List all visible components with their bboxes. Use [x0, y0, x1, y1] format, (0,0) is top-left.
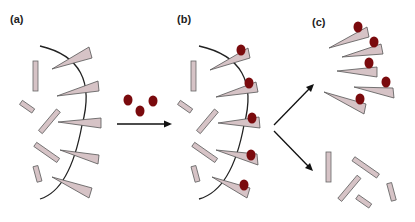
- ligand: [124, 95, 133, 106]
- wedge: [337, 67, 377, 77]
- wedge: [60, 150, 99, 164]
- arrow-right: [117, 121, 172, 128]
- rod: [191, 61, 196, 91]
- panel-b: (b): [177, 13, 260, 199]
- rod: [34, 142, 60, 162]
- wedge: [57, 81, 99, 96]
- bound-ligand: [248, 113, 257, 124]
- rod: [191, 165, 200, 182]
- rod: [33, 61, 38, 91]
- bound-ligand: [245, 78, 254, 89]
- wedge: [52, 47, 92, 69]
- bound-ligand: [370, 37, 379, 48]
- arrow-down-right: [274, 131, 313, 171]
- rod: [196, 109, 218, 134]
- panel-label-b: (b): [177, 13, 191, 25]
- bound-ligand: [382, 77, 391, 88]
- bound-ligand: [365, 58, 374, 69]
- diagram-figure: (a) (b): [0, 0, 415, 222]
- rod: [356, 195, 372, 208]
- panel-c: (c): [312, 16, 396, 208]
- bound-ligand: [237, 45, 246, 56]
- rod: [192, 142, 218, 162]
- bound-ligand: [356, 94, 365, 105]
- bound-ligand: [247, 150, 256, 161]
- bound-ligand: [354, 22, 363, 33]
- panel-label-a: (a): [10, 13, 24, 25]
- rod: [33, 165, 42, 182]
- rod: [387, 183, 396, 202]
- panel-label-c: (c): [312, 16, 326, 28]
- rod: [20, 100, 35, 113]
- bound-ligand: [240, 180, 249, 191]
- rod: [38, 109, 60, 134]
- free-ligands: [124, 95, 158, 117]
- wedge: [58, 118, 101, 128]
- ligand: [149, 96, 158, 107]
- panel-a: (a): [10, 13, 101, 199]
- arrow-up-right: [274, 84, 314, 125]
- rod: [352, 157, 379, 178]
- ligand: [136, 106, 145, 117]
- wedge: [329, 27, 369, 48]
- rod: [178, 100, 193, 113]
- rod: [326, 152, 331, 182]
